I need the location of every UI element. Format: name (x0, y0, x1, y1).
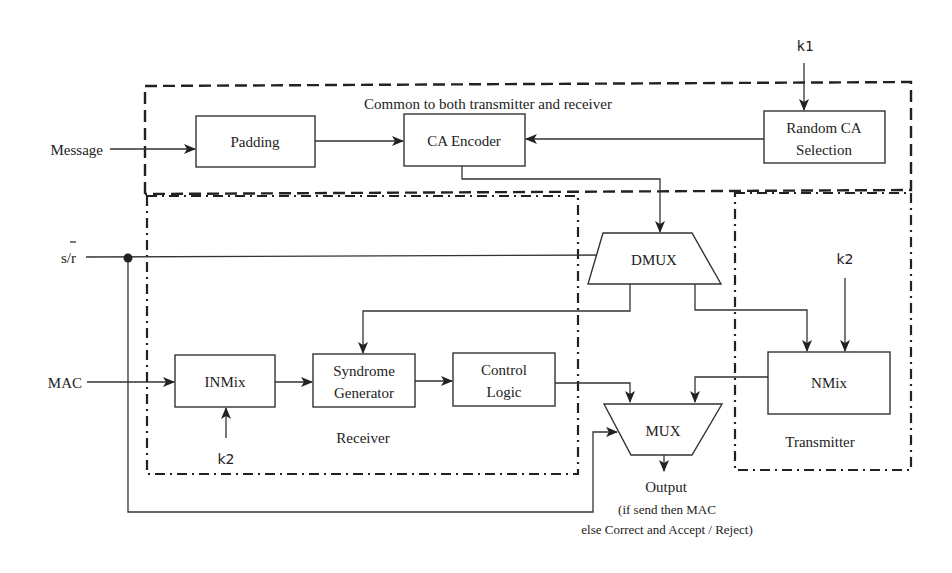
padding-label: Padding (230, 134, 280, 150)
mac-input-label: MAC (48, 375, 82, 391)
output-note-line2: else Correct and Accept / Reject) (581, 522, 752, 537)
nmix-label: NMix (811, 375, 847, 391)
dmux-label: DMUX (631, 252, 677, 268)
wire-dmux-to-nmix (695, 284, 807, 351)
mux-block: MUX (604, 404, 722, 455)
k2-receiver-key-label: k2 (217, 451, 234, 467)
select-input-label: s/r (61, 242, 76, 266)
nmix-block: NMix (768, 352, 890, 414)
random-ca-selection-block: Random CA Selection (764, 111, 885, 163)
transmitter-region-border (735, 193, 911, 470)
control-logic-label-line1: Control (481, 362, 527, 378)
random-ca-label-line2: Selection (796, 142, 852, 158)
output-note-line1: (if send then MAC (618, 502, 716, 517)
padding-block: Padding (196, 116, 315, 167)
dmux-block: DMUX (588, 233, 721, 284)
region-transmitter: Transmitter (735, 193, 911, 470)
inmix-label: INMix (205, 374, 246, 390)
output-label: Output (645, 479, 688, 495)
wire-nmix-to-mux (695, 377, 768, 402)
wire-encoder-to-dmux (462, 166, 660, 232)
syndrome-label-line2: Generator (334, 385, 394, 401)
mux-label: MUX (645, 423, 680, 439)
common-region-label: Common to both transmitter and receiver (364, 96, 612, 112)
receiver-region-label: Receiver (336, 430, 389, 446)
ca-encoder-label: CA Encoder (427, 133, 501, 149)
ca-encoder-block: CA Encoder (404, 114, 525, 166)
output-annotation: Output (if send then MAC else Correct an… (581, 479, 752, 537)
syndrome-label-line1: Syndrome (333, 363, 395, 379)
inmix-block: INMix (175, 355, 275, 407)
k2-transmitter-key-label: k2 (836, 251, 853, 267)
control-logic-block: Control Logic (453, 353, 555, 406)
transmitter-region-label: Transmitter (785, 434, 854, 450)
wire-dmux-to-syndrome (363, 284, 630, 353)
junction-dot (124, 254, 133, 263)
k1-key-label: k1 (797, 38, 814, 54)
random-ca-label-line1: Random CA (786, 120, 862, 136)
syndrome-generator-block: Syndrome Generator (313, 354, 415, 407)
wire-control-to-mux (555, 383, 630, 402)
block-diagram: Common to both transmitter and receiver … (0, 0, 952, 573)
wire-select-to-dmux (86, 255, 618, 257)
message-input-label: Message (51, 142, 104, 158)
control-logic-label-line2: Logic (487, 384, 522, 400)
select-label-text: s/r (61, 250, 76, 266)
